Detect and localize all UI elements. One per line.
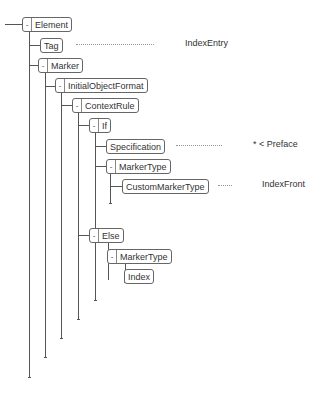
node-label: Tag xyxy=(41,39,62,52)
collapse-toggle-icon[interactable]: - xyxy=(90,229,99,242)
connector xyxy=(95,146,106,147)
spine-end xyxy=(28,377,31,378)
connector xyxy=(78,235,89,236)
node-value: IndexFront xyxy=(262,179,305,189)
node-marker-type-2[interactable]: - MarkerType xyxy=(107,249,172,264)
collapse-toggle-icon[interactable]: - xyxy=(108,250,117,263)
spine-end xyxy=(44,357,47,358)
spine-end xyxy=(77,319,80,320)
spine-initial-object-format xyxy=(61,93,62,339)
node-label: If xyxy=(99,119,110,132)
collapse-toggle-icon[interactable]: - xyxy=(39,59,48,72)
node-label: Marker xyxy=(48,59,82,72)
spine-marker-type-1 xyxy=(110,173,111,203)
connector xyxy=(45,86,55,87)
node-marker[interactable]: - Marker xyxy=(38,58,83,73)
node-initial-object-format[interactable]: - InitialObjectFormat xyxy=(55,78,148,93)
connector xyxy=(5,24,23,25)
collapse-toggle-icon[interactable]: - xyxy=(107,160,116,173)
node-label: Specification xyxy=(107,140,164,153)
node-label: Element xyxy=(32,18,71,31)
node-custom-marker-type[interactable]: CustomMarkerType xyxy=(122,179,209,194)
node-label: InitialObjectFormat xyxy=(65,79,147,92)
collapse-toggle-icon[interactable]: - xyxy=(56,79,65,92)
leader-dots xyxy=(176,145,222,146)
collapse-toggle-icon[interactable]: - xyxy=(73,99,82,112)
node-label: MarkerType xyxy=(117,250,171,263)
node-else[interactable]: - Else xyxy=(89,228,124,243)
node-label: Else xyxy=(99,229,123,242)
connector xyxy=(61,105,72,106)
node-label: ContextRule xyxy=(82,99,138,112)
spine-end xyxy=(109,203,112,204)
node-element[interactable]: - Element xyxy=(22,17,72,32)
node-index[interactable]: Index xyxy=(124,269,154,284)
connector xyxy=(78,125,89,126)
node-if[interactable]: - If xyxy=(89,118,111,133)
spine-context-rule xyxy=(78,113,79,320)
node-value: * < Preface xyxy=(253,139,298,149)
spine-marker xyxy=(45,73,46,358)
node-tag[interactable]: Tag xyxy=(40,38,63,53)
leader-dots xyxy=(76,44,154,45)
node-label: Index xyxy=(125,270,153,283)
node-context-rule[interactable]: - ContextRule xyxy=(72,98,139,113)
connector xyxy=(95,166,106,167)
spine-if xyxy=(95,133,96,301)
spine-end xyxy=(60,338,63,339)
node-marker-type-1[interactable]: - MarkerType xyxy=(106,159,171,174)
node-label: CustomMarkerType xyxy=(123,180,208,193)
leader-dots xyxy=(218,185,232,186)
node-specification[interactable]: Specification xyxy=(106,139,165,154)
collapse-toggle-icon[interactable]: - xyxy=(23,18,32,31)
node-label: MarkerType xyxy=(116,160,170,173)
spine-element xyxy=(29,32,30,378)
collapse-toggle-icon[interactable]: - xyxy=(90,119,99,132)
node-value: IndexEntry xyxy=(185,38,228,48)
spine-end xyxy=(94,300,97,301)
connector xyxy=(110,186,122,187)
